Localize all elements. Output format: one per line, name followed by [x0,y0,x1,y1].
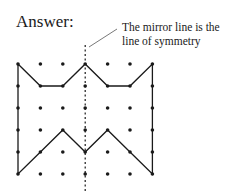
grid-dot [61,106,65,110]
grid-dot [39,106,43,110]
grid-dot [39,172,43,176]
grid-dot [106,150,110,154]
grid-dot [61,150,65,154]
grid-dot [128,62,132,66]
dot-grid-diagram [0,0,235,192]
grid-dot [39,62,43,66]
grid-dot [39,128,43,132]
grid-dot [128,128,132,132]
grid-dot [128,172,132,176]
grid-dot [61,172,65,176]
grid-dot [106,172,110,176]
grid-dot [128,106,132,110]
grid-dot [106,106,110,110]
grid-dot [106,62,110,66]
grid-dot [61,62,65,66]
annotation-leader-line [89,29,117,47]
